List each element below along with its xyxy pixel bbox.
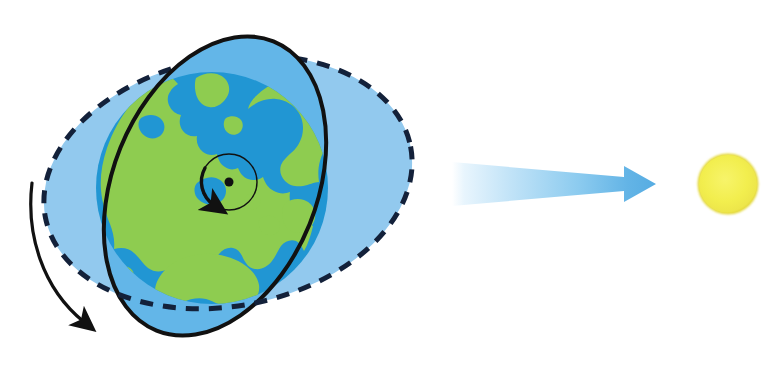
earth-sun-tilt-diagram <box>0 0 775 371</box>
sun-disc <box>699 155 757 213</box>
north-pole-dot <box>225 178 234 187</box>
sunlight-ray-arrow <box>452 162 656 206</box>
sunlight-ray-group <box>452 162 656 206</box>
diagram-canvas <box>0 0 775 371</box>
sun-group <box>698 154 759 215</box>
